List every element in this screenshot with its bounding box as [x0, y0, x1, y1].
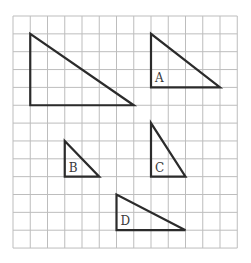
triangles-group: A B C D: [30, 34, 220, 230]
grid-diagram: A B C D: [0, 0, 251, 263]
triangle-b-label: B: [69, 161, 78, 175]
triangle-c-label: C: [155, 161, 164, 175]
triangle-d-label: D: [121, 214, 131, 228]
triangle-a-label: A: [154, 71, 164, 85]
